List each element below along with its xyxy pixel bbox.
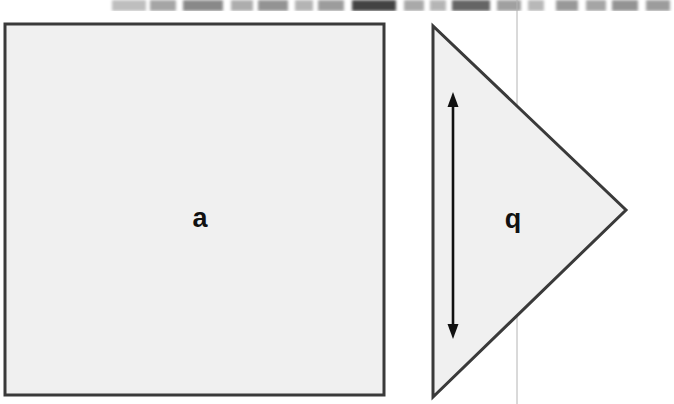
square-label: a — [192, 203, 208, 233]
geometry-figure: a b — [0, 0, 674, 404]
triangle-shape — [433, 26, 626, 397]
figure-page: a b — [0, 0, 674, 404]
triangle-label: b — [505, 207, 522, 237]
